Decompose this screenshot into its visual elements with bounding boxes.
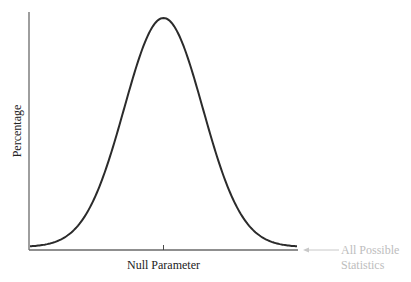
chart: Percentage Null Parameter All Possible S… bbox=[0, 0, 411, 282]
x-axis-label: Null Parameter bbox=[127, 258, 200, 272]
annotation-line-1: All Possible bbox=[341, 243, 399, 257]
y-axis-label: Percentage bbox=[10, 105, 24, 158]
annotation-line-2: Statistics bbox=[341, 258, 385, 272]
bell-curve-series bbox=[30, 18, 297, 246]
annotation-arrowhead-icon bbox=[303, 248, 309, 253]
